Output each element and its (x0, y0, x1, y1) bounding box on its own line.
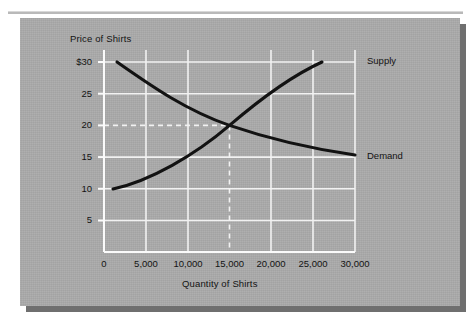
figure-root: Price of Shirts Quantity of Shirts $30 2… (0, 0, 473, 319)
y-axis-title: Price of Shirts (70, 33, 131, 44)
y-tick-label-10: 10 (62, 183, 92, 194)
top-divider-rule (8, 11, 463, 14)
y-tick-label-30: $30 (62, 56, 92, 67)
y-tick-label-5: 5 (62, 214, 92, 225)
x-tick-label-30000: 30,000 (327, 258, 383, 269)
demand-curve-label: Demand (367, 150, 403, 161)
x-axis-title: Quantity of Shirts (182, 278, 258, 289)
y-tick-label-20: 20 (62, 119, 92, 130)
y-tick-label-25: 25 (62, 88, 92, 99)
y-tick-label-15: 15 (62, 151, 92, 162)
supply-curve-label: Supply (367, 55, 396, 66)
